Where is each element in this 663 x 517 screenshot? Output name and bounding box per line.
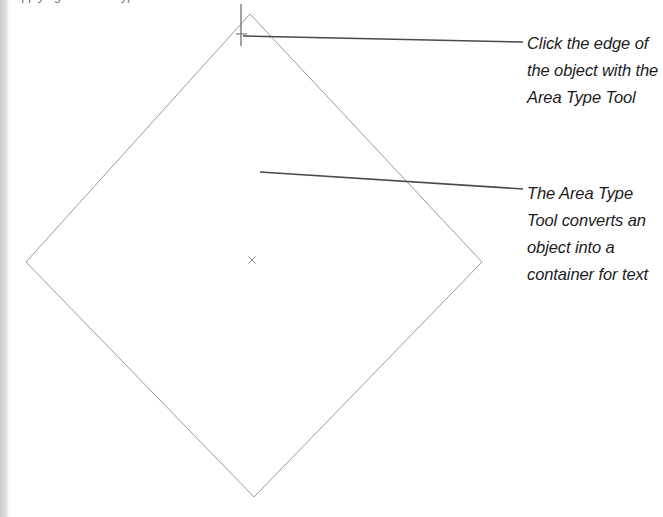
annotation-click-edge: Click the edge of the object with the Ar… — [527, 30, 663, 111]
annotation-line: Click the edge of — [527, 30, 663, 57]
annotation-converts: The Area Type Tool converts an object in… — [527, 180, 663, 288]
annotation-line: container for text — [527, 261, 663, 288]
illustration-page: Applying the Area Type Tool Click the ed… — [0, 0, 663, 517]
annotation-line: object into a — [527, 234, 663, 261]
annotation-line: Area Type Tool — [527, 84, 663, 111]
leader-line-click-edge — [243, 36, 523, 42]
area-type-cursor-icon — [236, 4, 247, 46]
annotation-line: The Area Type — [527, 180, 663, 207]
annotation-line: Tool converts an — [527, 207, 663, 234]
annotation-line: the object with the — [527, 57, 663, 84]
center-point-marker — [249, 257, 256, 264]
leader-line-converts — [260, 172, 523, 189]
diamond-path[interactable] — [26, 14, 482, 497]
